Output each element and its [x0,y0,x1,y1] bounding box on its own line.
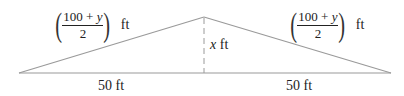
fraction-numerator: 100 + y [297,10,338,26]
height-label: x ft [210,38,228,52]
fraction: 100 + y 2 [297,10,338,40]
left-paren: ( [290,8,297,42]
right-side-label: ( 100 + y 2 ) ft [288,8,364,42]
unit-label: ft [121,17,130,33]
left-side-label: ( 100 + y 2 ) ft [53,8,129,42]
fraction-denominator: 2 [315,26,322,41]
fraction-denominator: 2 [80,26,87,41]
right-paren: ) [104,8,111,42]
right-paren: ) [339,8,346,42]
left-base-label: 50 ft [98,79,124,93]
right-base-label: 50 ft [286,79,312,93]
left-paren: ( [55,8,62,42]
fraction-numerator: 100 + y [62,10,103,26]
unit-label: ft [356,17,365,33]
fraction: 100 + y 2 [62,10,103,40]
